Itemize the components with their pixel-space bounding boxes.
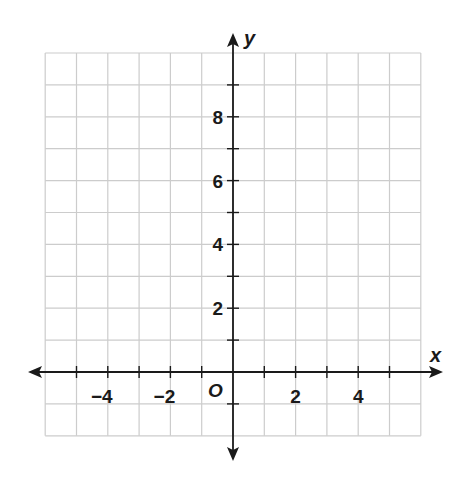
x-tick-label: −4 — [91, 386, 113, 407]
tick-labels: −4−2242468 — [91, 107, 364, 407]
y-axis-label: y — [243, 27, 256, 49]
y-tick-label: 2 — [212, 298, 223, 319]
y-tick-label: 8 — [212, 107, 223, 128]
y-tick-label: 4 — [212, 234, 223, 255]
x-tick-label: 2 — [290, 386, 301, 407]
coordinate-plane: −4−2242468 x y O — [0, 0, 465, 479]
y-tick-label: 6 — [212, 171, 223, 192]
origin-label: O — [208, 380, 223, 401]
x-tick-label: 4 — [353, 386, 364, 407]
x-tick-label: −2 — [154, 386, 176, 407]
x-axis-label: x — [429, 344, 442, 366]
